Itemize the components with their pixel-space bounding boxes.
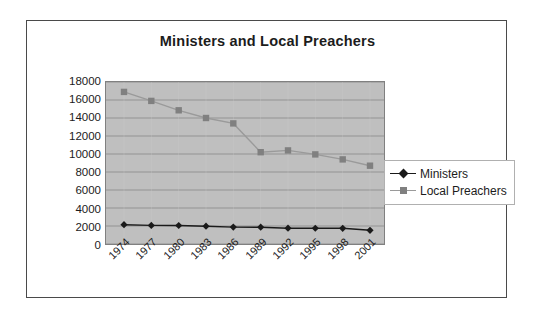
data-point-square	[258, 149, 264, 155]
chart-title: Ministers and Local Preachers	[27, 33, 508, 49]
legend-key-local-preachers	[390, 185, 416, 197]
data-point-diamond	[148, 222, 155, 229]
y-axis-labels: 1800016000140001200010000800060004000200…	[47, 73, 101, 253]
series-line-ministers	[124, 225, 370, 231]
plot-area	[105, 81, 385, 245]
y-tick-label: 0	[95, 239, 101, 251]
y-tick-label: 12000	[69, 130, 101, 142]
y-tick-label: 6000	[75, 184, 101, 196]
square-marker-icon	[400, 187, 407, 194]
diamond-marker-icon	[399, 168, 409, 178]
legend-item-ministers: Ministers	[390, 165, 507, 182]
data-point-square	[121, 89, 127, 95]
x-axis-labels: 1974197719801983198619891992199519982001	[105, 247, 387, 297]
chart-legend: Ministers Local Preachers	[384, 160, 515, 205]
plot-svg	[106, 82, 384, 244]
data-point-square	[340, 156, 346, 162]
data-point-square	[285, 147, 291, 153]
data-point-diamond	[366, 227, 373, 234]
y-tick-label: 2000	[75, 221, 101, 233]
data-point-diamond	[175, 222, 182, 229]
chart-frame: Ministers and Local Preachers 1800016000…	[26, 20, 507, 298]
y-tick-label: 8000	[75, 166, 101, 178]
y-tick-label: 4000	[75, 203, 101, 215]
data-point-square	[176, 107, 182, 113]
data-point-diamond	[120, 221, 127, 228]
legend-key-ministers	[390, 168, 416, 180]
chart-screenshot: Ministers and Local Preachers 1800016000…	[0, 0, 537, 315]
y-tick-label: 18000	[69, 75, 101, 87]
y-tick-label: 16000	[69, 93, 101, 105]
data-point-diamond	[202, 223, 209, 230]
data-point-square	[203, 115, 209, 121]
data-point-square	[367, 163, 373, 169]
data-point-diamond	[230, 224, 237, 231]
legend-item-local-preachers: Local Preachers	[390, 182, 507, 199]
data-point-square	[148, 98, 154, 104]
legend-label-local-preachers: Local Preachers	[420, 184, 507, 198]
data-point-diamond	[257, 224, 264, 231]
data-point-square	[230, 120, 236, 126]
data-point-square	[312, 151, 318, 157]
y-tick-label: 10000	[69, 148, 101, 160]
legend-label-ministers: Ministers	[420, 167, 468, 181]
series-line-local-preachers	[124, 92, 370, 166]
y-tick-label: 14000	[69, 111, 101, 123]
